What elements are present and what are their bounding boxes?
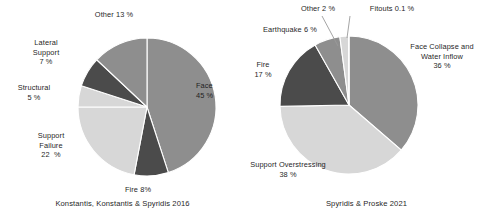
pie-label-other: Other 2 % bbox=[285, 4, 351, 14]
chart-caption-konstantis-2016: Konstantis, Konstantis & Spyridis 2016 bbox=[0, 199, 245, 208]
chart-panel-konstantis-2016: Other 13 %Lateral Support 7 %Structural … bbox=[0, 0, 245, 223]
chart-panel-spyridis-proske-2021: Other 2 %Fitouts 0.1 %Earthquake 6 %Fire… bbox=[244, 0, 489, 223]
pie-label-lateral-support: Lateral Support 7 % bbox=[17, 38, 75, 67]
pie-label-face-collapse: Face Collapse and Water Inflow 36 % bbox=[396, 42, 488, 71]
fitouts-leader bbox=[347, 16, 350, 38]
pie-chart-figure: Other 13 %Lateral Support 7 %Structural … bbox=[0, 0, 489, 223]
pie-label-fire: Fire 8% bbox=[110, 185, 166, 195]
pie-label-earthquake: Earthquake 6 % bbox=[250, 25, 330, 35]
chart-caption-spyridis-proske-2021: Spyridis & Proske 2021 bbox=[244, 199, 489, 208]
pie-label-other: Other 13 % bbox=[72, 10, 156, 20]
pie-label-face: Face 45 % bbox=[196, 81, 240, 100]
pie-label-support-overstressing: Support Overstressing 38 % bbox=[228, 160, 348, 179]
pie-label-fitouts: Fitouts 0.1 % bbox=[357, 4, 427, 14]
pie-label-support-failure: Support Failure 22 % bbox=[23, 131, 79, 160]
pie-label-structural: Structural 5 % bbox=[4, 83, 64, 102]
pie-label-fire: Fire 17 % bbox=[246, 60, 280, 79]
